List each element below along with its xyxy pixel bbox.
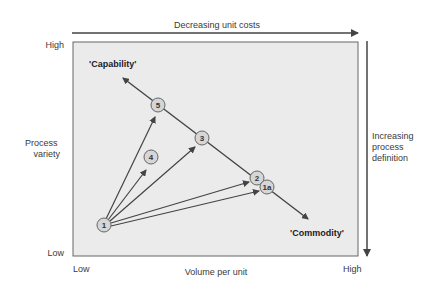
svg-text:1: 1 <box>102 221 107 230</box>
top-axis-label: Decreasing unit costs <box>174 20 261 30</box>
svg-text:1a: 1a <box>263 183 272 192</box>
x-axis-high: High <box>343 264 362 274</box>
x-axis-low: Low <box>73 264 90 274</box>
capability-label: 'Capability' <box>89 59 136 69</box>
process-diagram: Decreasing unit costs Increasing process… <box>0 0 435 294</box>
x-axis-label: Volume per unit <box>185 267 248 277</box>
svg-text:5: 5 <box>156 101 161 110</box>
right-axis-label: Increasing process definition <box>372 131 416 163</box>
y-axis-high: High <box>45 40 64 50</box>
y-axis-label: Process variety <box>25 138 61 159</box>
svg-text:3: 3 <box>200 134 205 143</box>
svg-text:2: 2 <box>255 174 260 183</box>
svg-text:4: 4 <box>149 153 154 162</box>
node-1: 1 <box>97 218 111 232</box>
node-4: 4 <box>144 150 158 164</box>
node-5: 5 <box>151 98 165 112</box>
commodity-label: 'Commodity' <box>290 228 344 238</box>
node-1a: 1a <box>260 180 274 194</box>
y-axis-low: Low <box>47 248 64 258</box>
node-3: 3 <box>195 131 209 145</box>
